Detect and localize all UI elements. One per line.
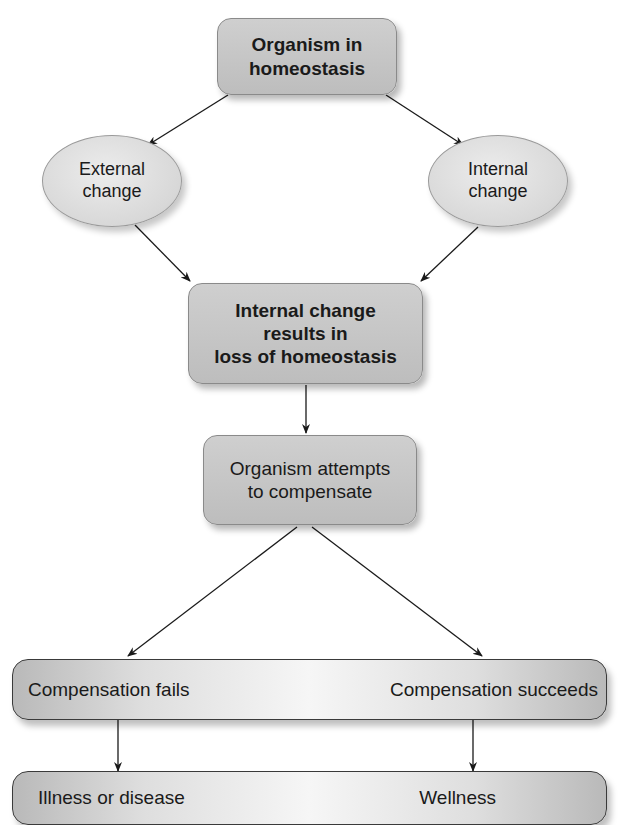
node-label: change: [468, 181, 528, 203]
node-label: Internal change: [214, 299, 397, 322]
node-label: to compensate: [230, 480, 391, 503]
arrow-external-to-loss: [135, 225, 190, 281]
arrow-top-to-internal: [386, 95, 463, 145]
node-label: loss of homeostasis: [214, 345, 397, 368]
arrow-compensate-to-fails: [128, 527, 297, 656]
node-label: Internal: [468, 159, 528, 181]
node-label: Organism attempts: [230, 457, 391, 480]
node-label: Organism in: [249, 33, 365, 56]
arrow-internal-to-loss: [421, 227, 478, 281]
label-compensation-succeeds: Compensation succeeds: [390, 679, 598, 701]
node-organism-in-homeostasis: Organism in homeostasis: [217, 18, 397, 95]
label-wellness: Wellness: [419, 787, 496, 809]
node-label: change: [79, 181, 145, 203]
node-organism-attempts-to-compensate: Organism attempts to compensate: [203, 435, 417, 525]
label-compensation-fails: Compensation fails: [28, 679, 190, 701]
bar-health-result: Illness or disease Wellness: [12, 771, 607, 825]
node-label: External: [79, 159, 145, 181]
arrow-compensate-to-succeeds: [312, 527, 482, 656]
node-loss-of-homeostasis: Internal change results in loss of homeo…: [188, 283, 423, 384]
label-illness-or-disease: Illness or disease: [38, 787, 185, 809]
node-external-change: External change: [42, 135, 182, 227]
bar-compensation-outcome: Compensation fails Compensation succeeds: [12, 659, 607, 720]
node-label: homeostasis: [249, 57, 365, 80]
node-internal-change: Internal change: [428, 135, 568, 227]
arrow-top-to-external: [148, 95, 228, 145]
node-label: results in: [214, 322, 397, 345]
